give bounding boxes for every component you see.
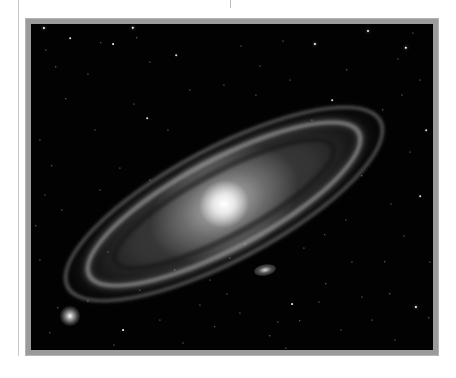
star [239, 312, 240, 313]
star [269, 335, 270, 336]
star [223, 84, 224, 85]
star [159, 319, 160, 320]
star [361, 296, 362, 297]
star [189, 89, 190, 90]
star [345, 219, 346, 220]
star [49, 332, 50, 333]
star [419, 79, 420, 80]
star [87, 73, 88, 74]
star [182, 342, 183, 343]
star [100, 42, 101, 43]
star [112, 43, 114, 45]
star [132, 27, 134, 29]
star [282, 40, 283, 41]
star [384, 261, 385, 262]
star [44, 194, 45, 195]
star [419, 195, 421, 197]
star [403, 235, 404, 236]
star [331, 99, 333, 101]
star [291, 303, 293, 305]
star [214, 326, 215, 327]
star [175, 54, 177, 56]
star [65, 98, 66, 99]
star [340, 329, 341, 330]
star [69, 37, 71, 39]
star [401, 94, 402, 95]
star [122, 329, 124, 331]
star [113, 344, 114, 345]
star [209, 279, 210, 280]
star [39, 139, 40, 140]
companion-galaxy-lower [253, 263, 277, 278]
star [57, 307, 58, 308]
star [394, 339, 395, 340]
star [382, 109, 383, 110]
star [259, 65, 260, 66]
star [415, 306, 417, 308]
star [367, 30, 369, 32]
star [289, 79, 290, 80]
star [351, 261, 352, 262]
page-left-rule [18, 0, 19, 356]
star [39, 259, 40, 260]
star [324, 234, 325, 235]
star [318, 301, 319, 302]
star [241, 46, 242, 47]
photo-frame [25, 18, 439, 356]
star [61, 209, 62, 210]
star [167, 129, 168, 130]
star [146, 117, 148, 119]
star [149, 61, 150, 62]
star [303, 247, 304, 248]
companion-galaxy-upper [60, 306, 80, 326]
star [43, 27, 45, 29]
star [277, 321, 278, 322]
star [397, 58, 398, 59]
star [35, 225, 36, 226]
star [94, 129, 95, 130]
star [428, 317, 429, 318]
star [405, 47, 407, 49]
star [389, 293, 390, 294]
star [409, 151, 410, 152]
star [390, 203, 391, 204]
star [119, 167, 120, 168]
galaxy-photo [31, 24, 433, 350]
star [285, 347, 286, 348]
star [133, 103, 134, 104]
star [361, 175, 362, 176]
star [45, 49, 46, 50]
star [346, 69, 347, 70]
star [55, 66, 56, 67]
star [412, 32, 413, 33]
star [425, 129, 427, 131]
star [371, 319, 372, 320]
star [325, 283, 326, 284]
star [51, 165, 52, 166]
star [429, 261, 430, 262]
star [99, 189, 100, 190]
star [314, 43, 316, 45]
star [226, 293, 227, 294]
star [255, 94, 256, 95]
star [199, 304, 200, 305]
star [136, 37, 137, 38]
page-top-tick [230, 0, 231, 8]
star [299, 320, 300, 321]
